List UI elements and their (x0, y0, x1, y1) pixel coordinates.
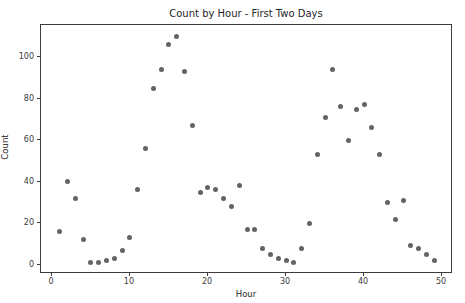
data-point (307, 221, 312, 226)
data-point (291, 260, 296, 265)
data-point (416, 246, 421, 251)
x-tick-mark (51, 273, 52, 276)
data-point (88, 260, 93, 265)
data-point (221, 196, 226, 201)
y-tick-label: 40 (0, 176, 34, 185)
y-tick-mark (37, 181, 40, 182)
data-point (166, 42, 171, 47)
data-point (354, 107, 359, 112)
x-tick-mark (441, 273, 442, 276)
data-point (135, 187, 140, 192)
plot-area (40, 24, 452, 273)
x-tick-mark (285, 273, 286, 276)
x-tick-label: 10 (124, 277, 134, 286)
data-point (252, 227, 257, 232)
data-point (330, 67, 335, 72)
data-point (369, 125, 374, 130)
data-point (284, 258, 289, 263)
data-point (174, 34, 179, 39)
y-tick-label: 100 (0, 52, 34, 61)
data-point (159, 67, 164, 72)
data-point (151, 86, 156, 91)
data-point (65, 179, 70, 184)
data-point (237, 183, 242, 188)
data-point (229, 204, 234, 209)
data-point (276, 256, 281, 261)
y-tick-label: 80 (0, 93, 34, 102)
data-point (338, 104, 343, 109)
scatter-chart: Count by Hour - First Two Days Count 010… (0, 0, 465, 303)
data-point (245, 227, 250, 232)
data-point (323, 115, 328, 120)
y-tick-mark (37, 222, 40, 223)
data-point (190, 123, 195, 128)
x-tick-mark (363, 273, 364, 276)
y-tick-mark (37, 56, 40, 57)
data-point (120, 248, 125, 253)
data-point (182, 69, 187, 74)
data-point (377, 152, 382, 157)
y-tick-mark (37, 264, 40, 265)
y-tick-mark (37, 139, 40, 140)
data-point (424, 252, 429, 257)
x-tick-label: 20 (202, 277, 212, 286)
y-axis-label: Count (0, 125, 10, 169)
data-point (432, 258, 437, 263)
x-tick-mark (207, 273, 208, 276)
data-point (362, 102, 367, 107)
x-tick-mark (129, 273, 130, 276)
data-point (127, 235, 132, 240)
data-point (143, 146, 148, 151)
x-tick-label: 30 (280, 277, 290, 286)
chart-title: Count by Hour - First Two Days (40, 8, 452, 19)
data-point (112, 256, 117, 261)
data-point (299, 246, 304, 251)
data-point (96, 260, 101, 265)
data-point (81, 237, 86, 242)
data-point (104, 258, 109, 263)
y-tick-mark (37, 98, 40, 99)
data-point (198, 190, 203, 195)
x-tick-label: 50 (436, 277, 446, 286)
data-point (205, 185, 210, 190)
data-point (408, 243, 413, 248)
data-point (213, 187, 218, 192)
data-point (315, 152, 320, 157)
data-point (401, 198, 406, 203)
data-point (57, 229, 62, 234)
y-tick-label: 20 (0, 218, 34, 227)
data-point (346, 138, 351, 143)
y-tick-label: 0 (0, 259, 34, 268)
data-point (385, 200, 390, 205)
x-tick-label: 0 (48, 277, 53, 286)
data-point (73, 196, 78, 201)
data-point (393, 217, 398, 222)
x-axis-label: Hour (40, 289, 452, 299)
y-tick-label: 60 (0, 135, 34, 144)
data-point (268, 252, 273, 257)
x-tick-label: 40 (358, 277, 368, 286)
data-point (260, 246, 265, 251)
